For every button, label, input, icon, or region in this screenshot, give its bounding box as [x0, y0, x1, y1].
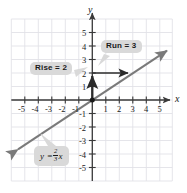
x-tick-label--2: -2 — [59, 105, 66, 114]
graph-figure: -5 -4 -3 -2 -1 1 2 3 4 5 5 4 3 2 1 -1 -2… — [0, 0, 187, 193]
rise-callout: Rise = 2 — [30, 62, 72, 75]
x-tick-label--4: -4 — [32, 105, 39, 114]
run-callout: Run = 3 — [101, 40, 142, 53]
y-tick-label--4: -4 — [79, 151, 86, 160]
y-tick-label--3: -3 — [79, 137, 86, 146]
run-callout-label: Run = 3 — [106, 41, 137, 50]
rise-callout-label: Rise = 2 — [35, 63, 67, 72]
y-tick-label--5: -5 — [79, 164, 86, 173]
y-tick-label--1: -1 — [79, 110, 86, 119]
equation-callout: y =23x — [34, 146, 69, 166]
y-tick-label-1: 1 — [82, 83, 86, 92]
x-tick-label-2: 2 — [117, 105, 121, 114]
equation-variable: x — [58, 151, 62, 161]
x-axis-label: x — [175, 94, 179, 104]
equation-callout-tail — [40, 133, 56, 146]
origin-point — [90, 98, 95, 103]
y-tick-label-5: 5 — [82, 29, 86, 38]
equation-lhs: y = — [40, 151, 53, 161]
y-tick-label-3: 3 — [82, 56, 86, 65]
coordinate-plane-svg — [0, 0, 187, 193]
run-callout-tail — [98, 54, 110, 66]
y-tick-label--2: -2 — [79, 124, 86, 133]
x-tick-label--3: -3 — [45, 105, 52, 114]
x-tick-label-3: 3 — [131, 105, 135, 114]
y-axis-label: y — [88, 5, 92, 15]
x-tick-label--5: -5 — [18, 105, 25, 114]
x-tick-label-5: 5 — [158, 105, 162, 114]
y-tick-label-2: 2 — [82, 70, 86, 79]
x-tick-label-4: 4 — [144, 105, 148, 114]
y-tick-label-4: 4 — [82, 43, 86, 52]
x-tick-label-1: 1 — [104, 105, 108, 114]
